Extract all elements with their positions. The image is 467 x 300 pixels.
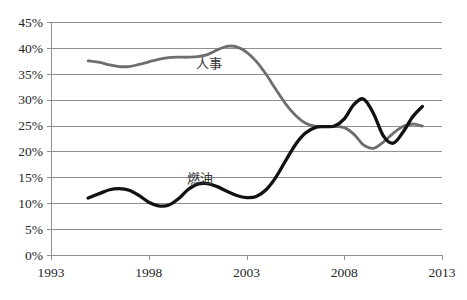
- x-tick-label-2008: 2008: [331, 265, 358, 280]
- series-label-renshi: 人事: [196, 56, 222, 71]
- y-tick-label-40: 40%: [18, 41, 43, 56]
- y-tick-label-10: 10%: [18, 196, 43, 211]
- series-annotations: 人事燃油: [187, 56, 223, 186]
- y-tick-label-5: 5%: [25, 222, 43, 237]
- x-tick-label-1993: 1993: [38, 265, 65, 280]
- series-label-ranyou: 燃油: [187, 171, 213, 186]
- y-tick-label-0: 0%: [25, 248, 43, 263]
- line-chart: 45%40%35%30%25%20%15%10%5%0% 19931998200…: [0, 0, 467, 300]
- y-tick-label-35: 35%: [18, 67, 43, 82]
- y-axis-tick-labels: 45%40%35%30%25%20%15%10%5%0%: [18, 15, 43, 263]
- x-tick-label-2013: 2013: [429, 265, 456, 280]
- x-axis-tick-labels: 19931998200320082013: [38, 265, 456, 280]
- series-line-renshi: [88, 46, 422, 148]
- y-tick-label-25: 25%: [18, 118, 43, 133]
- chart-canvas: 45%40%35%30%25%20%15%10%5%0% 19931998200…: [0, 0, 467, 300]
- y-tick-label-20: 20%: [18, 144, 43, 159]
- series-line-ranyou: [88, 99, 422, 206]
- x-tick-label-2003: 2003: [233, 265, 260, 280]
- y-tick-label-45: 45%: [18, 15, 43, 30]
- x-tick-label-1998: 1998: [135, 265, 162, 280]
- y-tick-label-30: 30%: [18, 92, 43, 107]
- y-tick-label-15: 15%: [18, 170, 43, 185]
